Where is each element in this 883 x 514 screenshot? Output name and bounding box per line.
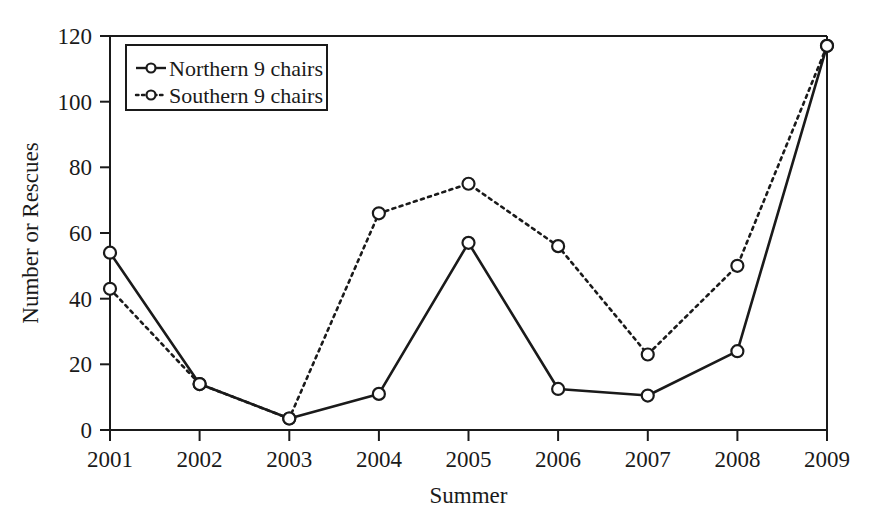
legend-marker-circle-icon-2	[147, 91, 156, 100]
x-axis-ticks	[110, 430, 827, 441]
data-point-northern-2001[interactable]	[104, 247, 116, 259]
y-tick-label-20: 20	[69, 352, 92, 377]
legend-label-northern: Northern 9 chairs	[169, 56, 323, 81]
data-point-southern-2006[interactable]	[552, 240, 564, 252]
x-tick-label-2003: 2003	[266, 447, 312, 472]
legend-marker-circle-icon	[147, 64, 156, 73]
data-point-southern-2001[interactable]	[104, 283, 116, 295]
y-tick-label-0: 0	[81, 418, 93, 443]
x-tick-label-2005: 2005	[446, 447, 492, 472]
x-tick-label-2007: 2007	[625, 447, 671, 472]
data-point-northern-2006[interactable]	[552, 383, 564, 395]
data-point-southern-2003[interactable]	[283, 413, 295, 425]
line-chart-figure: 0 20 40 60 80 100 120 2001 2002 2003 200…	[0, 0, 883, 514]
data-point-southern-2007[interactable]	[642, 348, 654, 360]
data-point-southern-2002[interactable]	[194, 378, 206, 390]
y-tick-label-120: 120	[58, 24, 93, 49]
y-tick-label-100: 100	[58, 90, 93, 115]
y-axis-tick-labels: 0 20 40 60 80 100 120	[58, 24, 93, 443]
x-tick-label-2001: 2001	[87, 447, 133, 472]
x-axis-tick-labels: 2001 2002 2003 2004 2005 2006 2007 2008 …	[87, 447, 850, 472]
y-axis-ticks	[100, 36, 110, 430]
data-point-northern-2007[interactable]	[642, 390, 654, 402]
y-axis-title: Number or Rescues	[18, 142, 43, 323]
chart-legend: Northern 9 chairs Southern 9 chairs	[126, 45, 327, 110]
data-point-northern-2005[interactable]	[463, 237, 475, 249]
chart-canvas: 0 20 40 60 80 100 120 2001 2002 2003 200…	[0, 0, 883, 514]
data-point-southern-2009[interactable]	[821, 40, 833, 52]
data-point-northern-2008[interactable]	[731, 345, 743, 357]
x-tick-label-2004: 2004	[356, 447, 403, 472]
x-tick-label-2008: 2008	[714, 447, 760, 472]
data-point-southern-2005[interactable]	[463, 178, 475, 190]
data-point-southern-2008[interactable]	[731, 260, 743, 272]
data-point-southern-2004[interactable]	[373, 207, 385, 219]
x-tick-label-2002: 2002	[177, 447, 223, 472]
data-point-northern-2004[interactable]	[373, 388, 385, 400]
y-tick-label-80: 80	[69, 155, 92, 180]
legend-label-southern: Southern 9 chairs	[169, 83, 323, 108]
y-tick-label-60: 60	[69, 221, 92, 246]
x-tick-label-2009: 2009	[804, 447, 850, 472]
x-tick-label-2006: 2006	[535, 447, 581, 472]
y-tick-label-40: 40	[69, 287, 92, 312]
x-axis-title: Summer	[430, 483, 508, 508]
